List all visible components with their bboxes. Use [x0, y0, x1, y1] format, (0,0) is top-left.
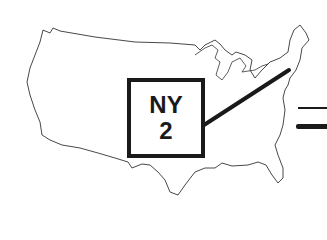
district-number: 2 [159, 118, 172, 144]
legend-thick-line [296, 124, 327, 129]
district-label-box: NY 2 [127, 78, 205, 158]
state-label: NY [149, 92, 182, 118]
legend-thin-line [298, 107, 327, 109]
